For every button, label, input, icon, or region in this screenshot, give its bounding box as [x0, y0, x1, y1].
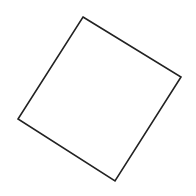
diagram-canvas	[0, 0, 196, 196]
rotated-square-shape	[18, 17, 181, 181]
